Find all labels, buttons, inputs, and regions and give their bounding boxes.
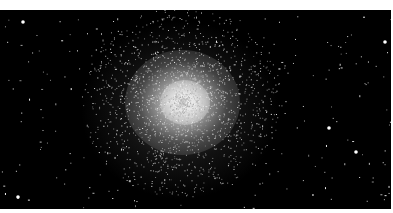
star-field	[0, 10, 391, 209]
star-cluster-photo	[0, 10, 391, 209]
